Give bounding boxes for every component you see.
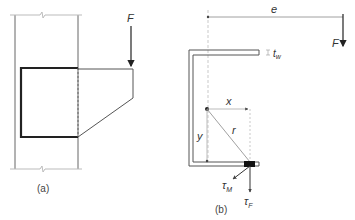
y-dimension-end (206, 160, 208, 162)
weld-outline (21, 68, 78, 137)
eccentricity-start-tick (207, 16, 209, 18)
thickness-indicator (266, 50, 270, 55)
r-label: r (232, 124, 237, 136)
tau-m-arrow (233, 166, 250, 179)
force-label-b: F (332, 37, 340, 49)
y-label: y (196, 130, 204, 142)
column-break-bottom (10, 166, 82, 172)
force-label-a: F (127, 12, 135, 24)
x-label: x (225, 95, 232, 107)
caption-b: (b) (215, 204, 227, 215)
figure-b: e F tw x y r τM τF (b) (189, 3, 343, 215)
eccentricity-label: e (271, 3, 277, 15)
r-line (207, 109, 250, 162)
channel-section (189, 50, 259, 166)
figure-a: F (a) (10, 12, 135, 194)
thickness-label: tw (273, 48, 282, 60)
diagram-canvas: F (a) e F tw x y r (0, 0, 355, 220)
tau-f-label: τF (244, 195, 253, 209)
caption-a: (a) (37, 183, 49, 194)
tau-m-label: τM (222, 179, 232, 193)
bracket-plate (78, 69, 133, 137)
column-break-top (10, 12, 82, 18)
